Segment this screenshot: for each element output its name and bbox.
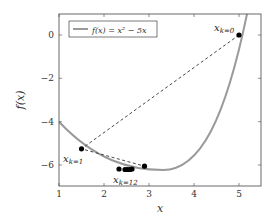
annotation-k0: xk=0 — [214, 22, 235, 35]
point-k0 — [236, 32, 241, 37]
step-lines — [82, 35, 240, 166]
point-k — [129, 166, 134, 171]
y-tick-label: 0 — [48, 30, 54, 40]
x-tick-label: 1 — [56, 189, 62, 199]
annotation-k1: xk=1 — [63, 153, 83, 166]
y-ticks — [59, 35, 261, 165]
chart: xk=0 xk=1 xk=12 1 2 3 4 5 0 −2 −4 −6 x f… — [0, 0, 275, 221]
point-k2 — [142, 164, 147, 169]
y-tick-label: −4 — [41, 117, 55, 127]
x-tick-label: 3 — [146, 189, 152, 199]
y-tick-label: −2 — [41, 73, 54, 83]
point-k1 — [79, 146, 84, 151]
x-tick-label: 2 — [101, 189, 107, 199]
x-axis-label: x — [157, 202, 164, 215]
annotation-k12: xk=12 — [113, 174, 138, 187]
point-k3 — [116, 166, 121, 171]
y-tick-label: −6 — [41, 160, 55, 170]
iterate-points — [79, 32, 242, 172]
legend: f(x) = x² − 5x — [69, 21, 157, 37]
y-axis-label: f(x) — [14, 91, 27, 111]
plot-frame — [59, 14, 261, 186]
parabola — [59, 14, 247, 170]
x-tick-label: 4 — [191, 189, 197, 199]
x-tick-label: 5 — [236, 189, 242, 199]
legend-label: f(x) = x² − 5x — [91, 26, 147, 35]
